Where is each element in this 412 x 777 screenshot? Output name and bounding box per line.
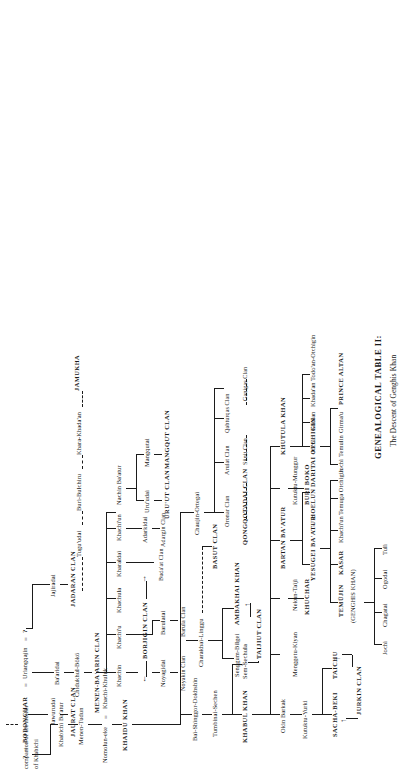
person-jochi2: Jochi — [310, 439, 316, 453]
connector — [32, 585, 33, 629]
connector — [28, 714, 48, 715]
connector — [214, 462, 224, 463]
connector — [154, 454, 162, 455]
person-ambakhai-khan: AMBAKHAI KHAN — [234, 562, 240, 625]
clan-qongqotadai: QONGQOTADAI CLAN — [242, 469, 248, 546]
person-menggetu-kiyan: Menggetu-Kiyan — [292, 632, 298, 677]
person-bodonchar: BODONCHAR — [22, 697, 28, 743]
arrow-left-icon: ← — [140, 675, 148, 683]
connector — [126, 528, 142, 529]
connector — [222, 714, 232, 715]
person-temujin-note: (GENGHIS KHAN) — [350, 569, 356, 623]
person-khachin: Khachin — [116, 665, 122, 687]
connector — [248, 662, 258, 663]
unknown-left: ? — [22, 755, 29, 759]
connector — [270, 654, 280, 655]
connector — [352, 655, 353, 667]
connector — [152, 528, 160, 529]
person-tuguudai: Tugu'udai — [76, 531, 82, 557]
sibling-bar — [374, 549, 375, 645]
person-khara-khadaan: Khara-Khada'an — [76, 412, 82, 455]
clan-arulat: Arulat Clan — [224, 445, 230, 475]
sibling-bar — [222, 609, 223, 659]
person-jawurudai: Jawurudai — [50, 698, 56, 725]
arrow-up-icon: ↑ — [240, 663, 248, 667]
sibling-bar — [322, 669, 323, 715]
connector — [204, 512, 214, 513]
person-bartan-baatur: BARTAN BA'ATUR — [280, 507, 286, 569]
person-chaujin-ortegai: Chaujin-Ortegai — [194, 492, 200, 535]
person-chagatai: Chagatai — [382, 603, 388, 627]
connector — [320, 446, 330, 447]
person-nomolun-eke: Nomolun-eke — [102, 727, 108, 763]
unknown-right: ? — [22, 629, 29, 633]
clan-basut: BASUT CLAN — [212, 524, 218, 569]
person-khachula: Khachula — [116, 588, 122, 613]
sibling-bar — [302, 375, 303, 447]
connector — [152, 621, 153, 635]
page-title-line1: GENEALOGICAL TABLE II: — [374, 335, 383, 459]
connector — [330, 408, 338, 409]
sibling-bar — [330, 481, 331, 603]
person-senggum-bilgei: Senggum-Bilgei — [234, 634, 240, 677]
arrow-up-icon: ↑ — [334, 657, 342, 661]
person-khachiun: Khachi'un — [116, 514, 122, 541]
person-okin-barkak: Okin Barkak — [280, 699, 286, 733]
person-temulin: Temulin — [338, 435, 344, 457]
connector — [96, 672, 106, 673]
arrow-right-icon: → — [140, 575, 148, 583]
connector — [32, 672, 54, 673]
connector — [270, 598, 280, 599]
connector — [32, 754, 50, 755]
equals-sign: = — [310, 523, 318, 527]
clan-ganigas: Ganigas Clan — [242, 367, 248, 401]
person-jochi: Jochi — [338, 459, 344, 473]
person-barulatai: Barulatai — [160, 611, 166, 635]
connector — [26, 628, 32, 629]
person-hoelun: HOELUN — [310, 489, 316, 519]
connector — [252, 714, 270, 715]
connector-dashed — [6, 724, 18, 725]
connector — [214, 388, 224, 389]
connector — [270, 488, 280, 489]
sibling-bar — [180, 513, 181, 725]
connector — [84, 672, 92, 673]
person-charakhai-linggu: Charakhai-Linggu — [198, 619, 204, 667]
connector — [126, 634, 152, 635]
person-kasar: KASAR — [338, 550, 344, 575]
person-nekun-taiji: Nekun-Taiji — [292, 579, 298, 611]
equals-sign: = — [22, 747, 30, 751]
person-uriangqajin: Uriangqajin — [22, 647, 28, 679]
connector — [170, 672, 178, 673]
person-jajiradai: Jajiradai — [50, 574, 56, 597]
person-menen-tudun: Menen-Tudun — [78, 708, 84, 745]
connector — [290, 540, 302, 541]
connector — [106, 512, 116, 513]
connector — [132, 724, 180, 725]
connector — [288, 598, 304, 599]
person-khuchar: KHUCHAR — [304, 578, 310, 615]
connector — [214, 418, 224, 419]
clan-jurkin: JURKIN CLAN — [356, 666, 362, 715]
person-tumbinai-sechen: Tumbinai-Sechen — [212, 690, 218, 737]
clan-budaat: Buda'at Clan — [158, 548, 164, 581]
clan-oronar: Oronar Clan — [224, 496, 230, 527]
person-temuga-otchigin: Temuga Otchigin — [338, 469, 344, 515]
person-chidukhul-boko: Chidukhul-Bökö — [74, 653, 80, 697]
connector — [288, 488, 304, 489]
connector — [146, 581, 147, 599]
person-tuli: Tuli — [382, 544, 388, 555]
clan-mangqut: MANGQUT CLAN — [164, 410, 170, 469]
connector — [152, 672, 160, 673]
person-ogodai: Ogodai — [382, 570, 388, 589]
connector — [126, 562, 154, 563]
person-nachin-baatur: Nachin Ba'atur — [116, 465, 122, 505]
person-jamukha: JAMUKHA — [74, 355, 80, 391]
person-buri-boko: BURI BOKO — [304, 464, 310, 505]
person-buri-bulchiru: Buri-Bulchiru — [76, 474, 82, 511]
person-kutuktu-yurki: Kutuktu-Yurki — [302, 700, 308, 739]
connector — [364, 602, 374, 603]
person-noyagidai: Noyagidai — [160, 659, 166, 687]
genealogical-chart-page: companion of the mother of Khabichi Jawu… — [0, 0, 412, 777]
connector — [154, 500, 162, 501]
